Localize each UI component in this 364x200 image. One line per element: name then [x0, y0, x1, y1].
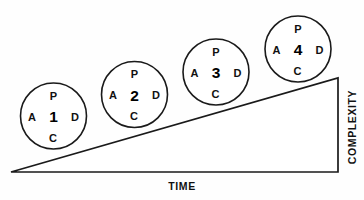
cycle-4-letter-act: A: [273, 44, 281, 56]
cycle-4-letter-check: C: [294, 65, 302, 77]
cycle-2-number: 2: [130, 87, 139, 104]
cycle-4-number: 4: [294, 41, 303, 58]
pdca-cycle-4[interactable]: P A D C 4: [265, 16, 331, 82]
cycle-4-letter-plan: P: [294, 23, 301, 35]
cycle-3-letter-check: C: [212, 88, 220, 100]
cycle-3-letter-plan: P: [212, 46, 219, 58]
pdca-cycle-2[interactable]: P A D C 2: [102, 62, 168, 128]
cycle-3-number: 3: [212, 64, 221, 81]
pdca-ramp-figure: P A D C 1 P A D C 2 P A D C 3 P A D C: [0, 0, 364, 200]
diagram-canvas: P A D C 1 P A D C 2 P A D C 3 P A D C: [0, 0, 364, 200]
cycle-2-letter-do: D: [152, 89, 160, 101]
cycle-2-letter-check: C: [130, 110, 138, 122]
cycle-3-letter-do: D: [234, 67, 242, 79]
cycle-4-letter-do: D: [316, 44, 324, 56]
cycle-1-letter-check: C: [49, 132, 57, 144]
cycle-1-number: 1: [49, 108, 58, 125]
cycle-2-letter-plan: P: [131, 68, 138, 80]
x-axis-label-time: TIME: [168, 180, 195, 192]
cycle-1-letter-do: D: [71, 111, 79, 123]
cycle-2-letter-act: A: [109, 89, 117, 101]
y-axis-label-complexity: COMPLEXITY: [346, 90, 358, 164]
cycle-1-letter-plan: P: [50, 90, 57, 102]
cycle-1-letter-act: A: [28, 111, 36, 123]
pdca-cycle-1[interactable]: P A D C 1: [21, 83, 87, 149]
pdca-cycle-3[interactable]: P A D C 3: [183, 39, 249, 105]
cycle-3-letter-act: A: [191, 67, 199, 79]
